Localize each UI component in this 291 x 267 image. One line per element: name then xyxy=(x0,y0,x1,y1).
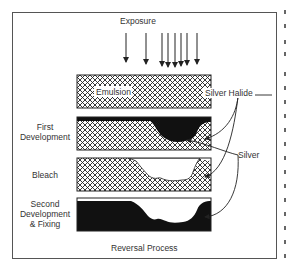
first-development-band xyxy=(77,117,211,150)
cropped-text-edge xyxy=(284,0,291,267)
emulsion-label: Emulsion xyxy=(96,87,131,97)
exposure-arrows xyxy=(126,33,197,67)
figure-caption: Reversal Process xyxy=(111,243,178,253)
bleach-band xyxy=(77,158,211,191)
bleach-label: Bleach xyxy=(16,170,74,180)
silver-label: Silver xyxy=(238,150,259,160)
first-development-label: First Development xyxy=(16,122,74,142)
second-development-band xyxy=(77,198,211,231)
second-development-label: Second Development & Fixing xyxy=(16,199,74,229)
silver-halide-label: Silver Halide xyxy=(203,88,255,98)
